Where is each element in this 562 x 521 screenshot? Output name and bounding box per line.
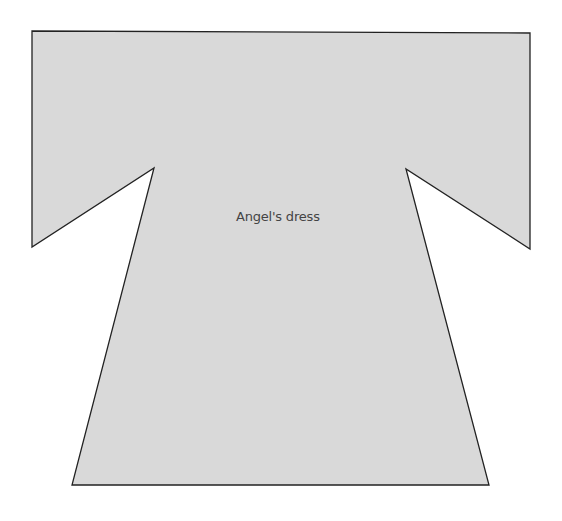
pattern-canvas <box>0 0 562 521</box>
pattern-piece-label: Angel's dress <box>236 209 320 224</box>
dress-pattern-shape <box>32 31 530 485</box>
